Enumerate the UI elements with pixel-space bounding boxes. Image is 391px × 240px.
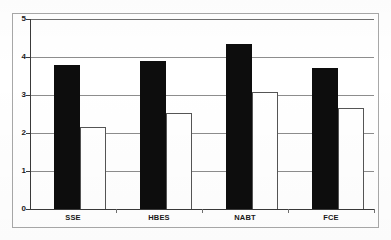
- bar-nabt-light: [252, 92, 278, 209]
- x-category-label-sse: SSE: [44, 213, 102, 223]
- x-tick-mark-2: [202, 209, 203, 213]
- bar-fce-light: [338, 108, 364, 209]
- x-tick-mark-1: [116, 209, 117, 213]
- plot-area: [30, 19, 374, 209]
- y-tick-label-5: 5: [12, 15, 26, 23]
- bar-sse-dark: [54, 65, 80, 209]
- gridline-4: [30, 57, 374, 58]
- y-tick-label-0: 0: [12, 205, 26, 213]
- x-tick-mark-3: [288, 209, 289, 213]
- x-category-label-fce: FCE: [302, 213, 360, 223]
- y-axis-line: [30, 19, 31, 210]
- y-tick-label-2: 2: [12, 129, 26, 137]
- x-tick-mark-4: [374, 209, 375, 213]
- y-axis-tick-labels: 5 4 3 2 1 0: [8, 0, 26, 240]
- bar-hbes-light: [166, 113, 192, 209]
- y-tick-label-3: 3: [12, 91, 26, 99]
- y-tick-label-1: 1: [12, 167, 26, 175]
- y-tick-label-4: 4: [12, 53, 26, 61]
- bar-sse-light: [80, 127, 106, 209]
- bar-fce-dark: [312, 68, 338, 209]
- x-category-label-nabt: NABT: [216, 213, 274, 223]
- bar-chart-figure: 5 4 3 2 1 0 SSE HBES NA: [0, 0, 391, 240]
- bar-nabt-dark: [226, 44, 252, 209]
- gridline-5: [30, 19, 374, 20]
- x-category-label-hbes: HBES: [130, 213, 188, 223]
- bar-hbes-dark: [140, 61, 166, 209]
